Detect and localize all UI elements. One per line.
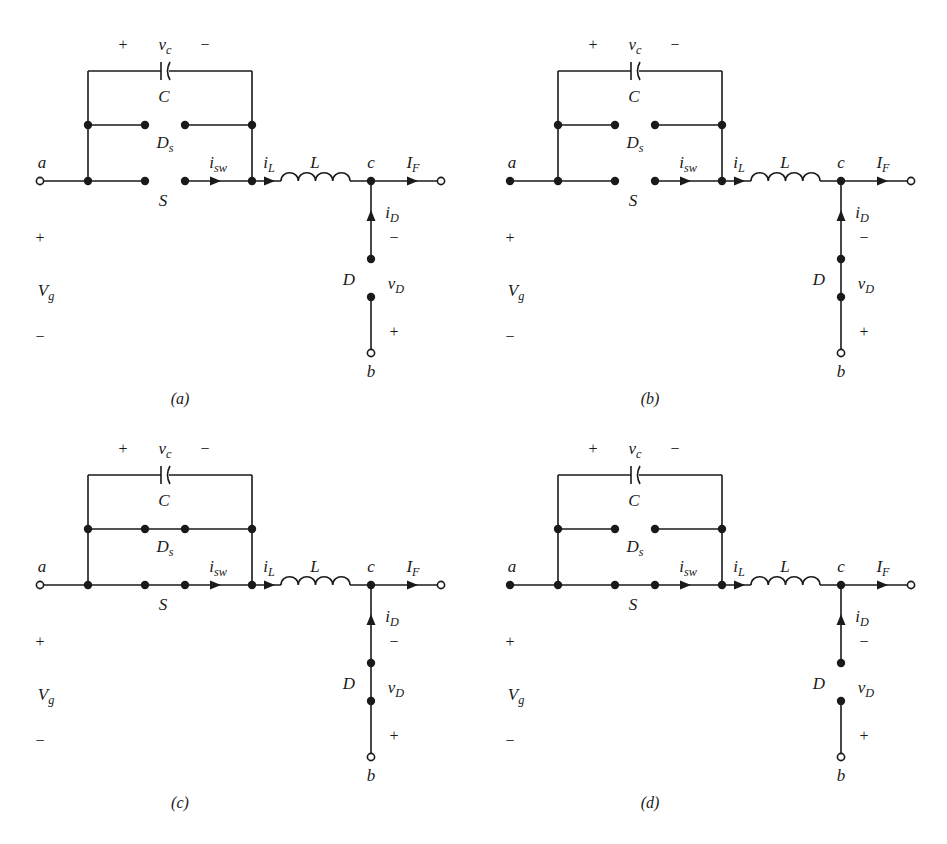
ds-junction-left — [84, 121, 92, 129]
junction-right — [248, 581, 256, 589]
vd-minus-label: − — [859, 229, 868, 246]
vg-plus-label: + — [35, 633, 44, 650]
circuit-panel-d: +vc−CDsSiswiLLcIFa+Vg−iD−DvD+b(d) — [470, 420, 947, 844]
ds-junction-left — [554, 121, 562, 129]
node-c-label: c — [367, 557, 375, 576]
switch-contact-left — [611, 177, 619, 185]
ds-junction-right — [718, 121, 726, 129]
isw-arrow-icon — [680, 177, 691, 186]
node-c-label: c — [837, 153, 845, 172]
ds-junction-right — [248, 121, 256, 129]
terminal-b — [367, 753, 374, 760]
diode-label: D — [342, 270, 356, 289]
ds-junction-left — [84, 525, 92, 533]
switch-contact-left — [141, 177, 149, 185]
diode-label: D — [812, 674, 826, 693]
diode-contact-top — [837, 255, 845, 263]
diode-contact-top — [367, 659, 375, 667]
il-label: iL — [733, 153, 745, 175]
ds-contact-left — [611, 121, 619, 129]
if-arrow-icon — [407, 177, 418, 186]
vg-minus-label: − — [35, 732, 44, 749]
il-label: iL — [733, 557, 745, 579]
if-label: IF — [405, 153, 420, 175]
ds-contact-right — [651, 121, 659, 129]
switch-contact-right — [651, 177, 659, 185]
node-c — [367, 177, 375, 185]
circuit-panel-c: +vc−CDsSiswiLLcIFa+Vg−iD−DvD+b(c) — [0, 420, 477, 844]
switch-contact-right — [181, 177, 189, 185]
id-label: iD — [855, 607, 869, 629]
id-label: iD — [385, 203, 399, 225]
terminal-output — [437, 581, 444, 588]
vg-minus-label: − — [35, 328, 44, 345]
terminal-b — [837, 349, 844, 356]
node-b-label: b — [837, 766, 846, 785]
isw-label: isw — [209, 153, 227, 175]
diode-contact-bottom — [837, 293, 845, 301]
ds-contact-left — [611, 525, 619, 533]
vd-label: vD — [388, 678, 405, 700]
diode-label: D — [812, 270, 826, 289]
isw-label: isw — [209, 557, 227, 579]
vd-minus-label: − — [389, 633, 398, 650]
vc-label: vc — [159, 439, 173, 461]
if-label: IF — [405, 557, 420, 579]
il-arrow-icon — [734, 581, 745, 590]
diode-contact-top — [367, 255, 375, 263]
node-c-label: c — [837, 557, 845, 576]
switch-contact-right — [181, 581, 189, 589]
isw-arrow-icon — [210, 581, 221, 590]
switch-label: S — [159, 191, 168, 210]
node-a-label: a — [508, 153, 517, 172]
if-arrow-icon — [407, 581, 418, 590]
vg-label: Vg — [38, 685, 55, 707]
junction-right — [718, 581, 726, 589]
vc-minus-label: − — [200, 440, 209, 457]
vg-plus-label: + — [505, 633, 514, 650]
node-a-label: a — [38, 153, 47, 172]
vg-label: Vg — [38, 281, 55, 303]
switch-contact-left — [611, 581, 619, 589]
switch-contact-right — [651, 581, 659, 589]
vd-plus-label: + — [859, 323, 868, 340]
vd-label: vD — [858, 678, 875, 700]
id-arrow-icon — [837, 210, 846, 221]
id-arrow-icon — [367, 614, 376, 625]
junction-right — [248, 177, 256, 185]
vc-minus-label: − — [200, 36, 209, 53]
inductor-label: L — [309, 557, 319, 576]
switch-label: S — [629, 191, 638, 210]
ds-junction-left — [554, 525, 562, 533]
il-arrow-icon — [734, 177, 745, 186]
node-b-label: b — [837, 362, 846, 381]
vd-label: vD — [858, 274, 875, 296]
terminal-a — [36, 581, 43, 588]
il-label: iL — [263, 557, 275, 579]
panel-caption: (a) — [171, 390, 190, 408]
ds-contact-right — [181, 121, 189, 129]
node-b-label: b — [367, 362, 376, 381]
terminal-output — [907, 177, 914, 184]
vd-plus-label: + — [389, 727, 398, 744]
vc-plus-label: + — [588, 36, 597, 53]
id-label: iD — [385, 607, 399, 629]
node-c — [837, 177, 845, 185]
junction-left — [554, 177, 562, 185]
inductor-coil — [751, 577, 820, 585]
vg-label: Vg — [508, 685, 525, 707]
id-label: iD — [855, 203, 869, 225]
capacitor-label: C — [628, 491, 640, 510]
ds-contact-right — [651, 525, 659, 533]
vd-minus-label: − — [859, 633, 868, 650]
ds-contact-left — [141, 121, 149, 129]
capacitor-label: C — [158, 87, 170, 106]
vg-minus-label: − — [505, 732, 514, 749]
ds-label: Ds — [155, 537, 173, 559]
circuit-figure: +vc−CDsSiswiLLcIFa+Vg−iD−DvD+b(a)+vc−CDs… — [0, 0, 947, 844]
inductor-label: L — [309, 153, 319, 172]
vc-minus-label: − — [670, 440, 679, 457]
vd-plus-label: + — [859, 727, 868, 744]
circuit-panel-a: +vc−CDsSiswiLLcIFa+Vg−iD−DvD+b(a) — [0, 0, 477, 424]
circuit-panel-b: +vc−CDsSiswiLLcIFa+Vg−iD−DvD+b(b) — [470, 0, 947, 424]
